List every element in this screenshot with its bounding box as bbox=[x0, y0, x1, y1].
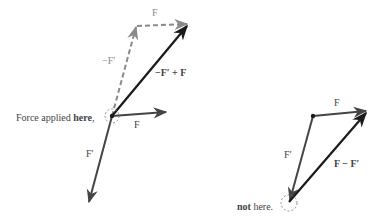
vector-diagram: F −F′ −F′ + F F F′ Force applied here, F… bbox=[0, 0, 381, 224]
right-f-arrow bbox=[313, 111, 366, 116]
caption-not-here: not here. bbox=[237, 201, 273, 212]
f-prime-arrow bbox=[89, 116, 112, 202]
label-dashed-f: F bbox=[152, 7, 158, 18]
label-f: F bbox=[134, 119, 140, 130]
dashed-f-arrow bbox=[137, 24, 187, 26]
right-diagram: F F′ F − F′ not here. bbox=[237, 97, 366, 212]
f-arrow bbox=[112, 112, 166, 116]
label-f-prime: F′ bbox=[86, 148, 94, 159]
left-diagram: F −F′ −F′ + F F F′ Force applied here, bbox=[16, 7, 187, 202]
right-label-f-prime: F′ bbox=[284, 149, 292, 160]
label-dashed-neg-f-prime: −F′ bbox=[102, 55, 115, 66]
label-sum: −F′ + F bbox=[155, 67, 186, 78]
caption-force-applied-here: Force applied here, bbox=[16, 112, 94, 123]
not-here-circle bbox=[281, 195, 297, 211]
right-label-f: F bbox=[334, 97, 340, 108]
label-difference: F − F′ bbox=[334, 158, 360, 169]
application-point-dot bbox=[110, 114, 114, 118]
right-dot bbox=[311, 114, 315, 118]
